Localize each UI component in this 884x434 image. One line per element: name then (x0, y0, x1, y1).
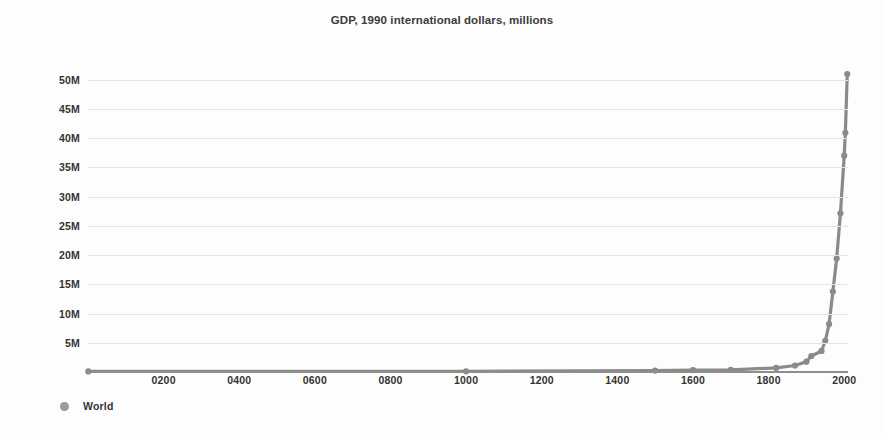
x-tick-label: 0200 (152, 374, 176, 386)
x-tick-label: 1800 (757, 374, 781, 386)
series-data-point (803, 359, 809, 365)
x-axis: 0200040006000800100012001400160018002000 (0, 374, 884, 394)
x-tick-label: 1600 (681, 374, 705, 386)
series-data-point (818, 348, 824, 354)
series-data-point (837, 210, 843, 216)
y-tick-label: 50M (4, 74, 80, 86)
x-tick-label: 1000 (454, 374, 478, 386)
y-tick-label: 35M (4, 161, 80, 173)
legend: World (60, 400, 114, 412)
gridline (88, 284, 848, 285)
x-tick-label: 0600 (303, 374, 327, 386)
series-world (88, 68, 848, 372)
gridline (88, 109, 848, 110)
x-tick-label: 2000 (832, 374, 856, 386)
series-data-point (792, 362, 798, 368)
gridline (88, 314, 848, 315)
y-tick-label: 30M (4, 191, 80, 203)
y-tick-label: 40M (4, 132, 80, 144)
gdp-line-chart: GDP, 1990 international dollars, million… (0, 0, 884, 434)
y-tick-label: 25M (4, 220, 80, 232)
series-data-point (808, 353, 814, 359)
gridline (88, 80, 848, 81)
x-axis-line (88, 371, 848, 373)
legend-label-world: World (83, 400, 114, 412)
series-data-point (826, 321, 832, 327)
series-world-line (88, 74, 847, 371)
series-data-point (834, 255, 840, 261)
series-data-point (830, 288, 836, 294)
y-axis: 5M10M15M20M25M30M35M40M45M50M (0, 0, 80, 434)
series-data-point (841, 153, 847, 159)
series-data-point (842, 130, 848, 136)
legend-marker-world-icon (60, 402, 69, 411)
plot-area (88, 68, 848, 372)
y-tick-label: 20M (4, 249, 80, 261)
gridline (88, 197, 848, 198)
y-tick-label: 15M (4, 278, 80, 290)
series-world-markers (85, 71, 850, 375)
gridline (88, 138, 848, 139)
x-tick-label: 1400 (605, 374, 629, 386)
series-data-point (844, 71, 850, 77)
x-tick-label: 0400 (227, 374, 251, 386)
gridline (88, 167, 848, 168)
y-tick-label: 45M (4, 103, 80, 115)
x-tick-label: 1200 (530, 374, 554, 386)
y-tick-label: 10M (4, 308, 80, 320)
gridline (88, 226, 848, 227)
chart-title: GDP, 1990 international dollars, million… (0, 14, 884, 26)
gridline (88, 255, 848, 256)
gridline (88, 343, 848, 344)
y-tick-label: 5M (4, 337, 80, 349)
x-tick-label: 0800 (378, 374, 402, 386)
